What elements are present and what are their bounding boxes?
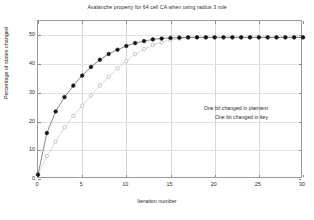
data-point	[125, 60, 128, 63]
y-tick-label: 30	[7, 89, 35, 95]
data-point	[107, 52, 111, 56]
data-point	[116, 48, 120, 52]
data-point	[98, 84, 101, 87]
data-point	[213, 36, 217, 40]
data-point	[169, 36, 173, 40]
data-point	[257, 36, 261, 40]
legend-label-plaintext: One bit changed in plaintext	[204, 105, 268, 111]
x-axis-tick-mark	[303, 175, 304, 178]
data-point	[72, 114, 75, 117]
data-point	[125, 44, 129, 48]
x-axis-tick-mark	[303, 21, 304, 24]
data-point	[63, 126, 66, 129]
data-point	[204, 36, 208, 40]
x-tick-label: 10	[113, 181, 137, 187]
data-point	[292, 36, 296, 40]
data-point	[275, 36, 279, 40]
data-point	[45, 154, 48, 157]
data-point	[54, 140, 57, 143]
x-tick-label: 5	[69, 181, 93, 187]
data-point	[266, 36, 270, 40]
x-tick-label: 0	[25, 181, 49, 187]
data-point	[195, 36, 199, 40]
data-point	[160, 37, 164, 41]
chart-legend: One bit changed in plaintext One bit cha…	[184, 105, 302, 127]
data-point	[301, 36, 305, 40]
x-axis-tick-labels: 051015202530	[37, 181, 302, 191]
y-tick-label: 10	[7, 146, 35, 152]
data-point	[231, 36, 235, 40]
data-point	[107, 75, 110, 78]
x-axis-label: Iteration number	[0, 198, 314, 204]
y-axis-tick-mark	[299, 179, 302, 180]
x-tick-label: 15	[158, 181, 182, 187]
data-point	[284, 36, 288, 40]
data-point	[116, 67, 119, 70]
data-point	[89, 65, 93, 69]
data-point	[222, 36, 226, 40]
legend-item-key[interactable]: One bit changed in key	[184, 114, 302, 123]
data-point	[98, 58, 102, 62]
data-point	[248, 36, 252, 40]
legend-label-key: One bit changed in key	[215, 114, 268, 120]
y-tick-label: 20	[7, 118, 35, 124]
data-point	[151, 43, 154, 46]
x-tick-label: 30	[290, 181, 314, 187]
chart-figure: Avalanche property for 64 cell CA when u…	[0, 0, 314, 220]
data-point	[36, 173, 40, 177]
chart-title: Avalanche property for 64 cell CA when u…	[0, 4, 314, 10]
y-axis-tick-mark	[38, 179, 41, 180]
y-axis-tick-labels: 01020304050	[0, 20, 35, 178]
data-point	[72, 84, 76, 88]
data-point	[54, 110, 58, 114]
data-point	[142, 47, 145, 50]
data-point	[133, 41, 137, 45]
data-point	[178, 36, 182, 40]
data-point	[133, 52, 136, 55]
legend-item-plaintext[interactable]: One bit changed in plaintext	[184, 105, 302, 114]
data-point	[151, 38, 155, 42]
plot-area	[37, 20, 302, 178]
y-tick-label: 50	[7, 31, 35, 37]
data-point	[89, 94, 92, 97]
data-point	[63, 95, 67, 99]
data-point	[239, 36, 243, 40]
x-tick-label: 20	[202, 181, 226, 187]
data-series-layer	[38, 21, 303, 179]
y-tick-label: 40	[7, 60, 35, 66]
x-tick-label: 25	[246, 181, 270, 187]
data-point	[160, 41, 163, 44]
data-point	[80, 74, 84, 78]
data-point	[45, 131, 49, 135]
data-point	[80, 104, 83, 107]
data-point	[186, 36, 190, 40]
data-point	[142, 39, 146, 43]
